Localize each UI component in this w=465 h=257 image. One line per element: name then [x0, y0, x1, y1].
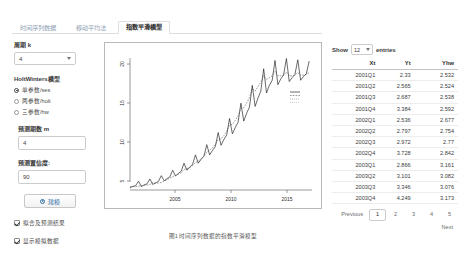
- period-label: 周期 k: [14, 40, 94, 49]
- entries-select[interactable]: 12: [351, 44, 373, 55]
- control-sidebar: 周期 k 4 HoltWinters模型 单参数/ses 两参数/holt 三参…: [14, 40, 94, 255]
- table-cell-xt: 2002Q3: [332, 137, 375, 148]
- table-cell-yhw: 2.842: [419, 148, 458, 159]
- show-label: Show: [332, 47, 348, 53]
- table-row: 2003Q23.1013.082: [332, 170, 458, 181]
- entries-select-value: 12: [354, 47, 360, 53]
- pagination-next[interactable]: Next: [436, 222, 458, 234]
- series-line-yt: [130, 59, 309, 188]
- table-row: 2001Q22.5652.524: [332, 81, 458, 92]
- table-cell-xt: 2002Q4: [332, 148, 375, 159]
- table-row: 2002Q12.5362.677: [332, 114, 458, 125]
- radio-option-hw[interactable]: 三参数/hw: [14, 108, 94, 116]
- table-cell-yhw: 3.161: [419, 159, 458, 170]
- tab-timeseries-data[interactable]: 时间序列数据: [12, 22, 64, 34]
- show-entries-control: Show 12 entries: [332, 44, 458, 55]
- series-line-yhw: [130, 71, 309, 186]
- radio-option-holt[interactable]: 两参数/holt: [14, 97, 94, 105]
- table-cell-yt: 2.565: [375, 81, 418, 92]
- chevron-down-icon: [366, 48, 370, 51]
- timeseries-plot: 20 15 10 5 2005 2010 2015: [104, 42, 322, 209]
- table-cell-yt: 2.972: [375, 137, 418, 148]
- play-circle-icon: [40, 199, 45, 204]
- checkbox-icon-fit-forecast: [14, 220, 20, 226]
- table-header-row: Xt Yt Yhw: [332, 60, 458, 70]
- app-root: 时间序列数据 移动平均法 指数平滑模型 周期 k 4 HoltWinters模型…: [0, 0, 465, 257]
- period-select[interactable]: 4: [14, 52, 76, 65]
- table-row: 2001Q32.6872.538: [332, 92, 458, 103]
- table-row: 2001Q12.332.532: [332, 70, 458, 81]
- pagination-page-3[interactable]: 3: [405, 209, 422, 221]
- tab-exponential-smoothing[interactable]: 指数平滑模型: [118, 21, 170, 34]
- chevron-down-icon: [67, 57, 71, 60]
- y-tick-10: 10: [119, 139, 125, 145]
- tab-moving-average[interactable]: 移动平均法: [68, 22, 114, 34]
- col-header-xt[interactable]: Xt: [332, 60, 375, 70]
- table-cell-yt: 2.797: [375, 125, 418, 136]
- pagination-page-5[interactable]: 5: [441, 209, 458, 221]
- table-row: 2002Q32.9722.77: [332, 137, 458, 148]
- checkbox-show-simulated[interactable]: 显示模拟数据: [14, 237, 94, 245]
- plot-legend: [290, 92, 300, 103]
- table-cell-yhw: 2.77: [419, 137, 458, 148]
- table-cell-yhw: 2.754: [419, 125, 458, 136]
- table-cell-xt: 2003Q3: [332, 181, 375, 192]
- table-cell-yhw: 2.538: [419, 92, 458, 103]
- table-cell-yhw: 3.082: [419, 170, 458, 181]
- radio-label-hw: 三参数/hw: [22, 108, 49, 116]
- checkbox-label-show-simulated: 显示模拟数据: [23, 237, 59, 245]
- pagination-page-4[interactable]: 4: [423, 209, 440, 221]
- run-model-button[interactable]: 建模: [24, 194, 76, 208]
- x-tick-2010: 2010: [225, 196, 236, 202]
- y-tick-15: 15: [119, 100, 125, 106]
- pagination: Previous 1 2 3 4 5 Next: [332, 209, 458, 233]
- pagination-page-2[interactable]: 2: [387, 209, 404, 221]
- table-cell-yt: 3.728: [375, 148, 418, 159]
- pagination-page-1[interactable]: 1: [369, 209, 386, 221]
- x-tick-2005: 2005: [169, 196, 180, 202]
- x-tick-2015: 2015: [281, 196, 292, 202]
- table-cell-xt: 2001Q4: [332, 103, 375, 114]
- tab-bar: 时间序列数据 移动平均法 指数平滑模型: [12, 16, 322, 34]
- table-cell-xt: 2003Q4: [332, 193, 375, 204]
- plot-caption: 图1 时间序列数据的指数平滑模型: [104, 232, 322, 240]
- y-tick-5: 5: [119, 179, 125, 182]
- table-cell-yt: 2.33: [375, 70, 418, 81]
- radio-label-ses: 单参数/ses: [22, 86, 50, 94]
- table-row: 2003Q44.2493.173: [332, 193, 458, 204]
- run-model-label: 建模: [48, 197, 60, 206]
- table-cell-yhw: 2.592: [419, 103, 458, 114]
- entries-label: entries: [376, 47, 396, 53]
- col-header-yhw[interactable]: Yhw: [419, 60, 458, 70]
- table-cell-yhw: 3.076: [419, 181, 458, 192]
- y-tick-20: 20: [119, 61, 125, 67]
- period-select-value: 4: [19, 56, 22, 62]
- results-table: Xt Yt Yhw 2001Q12.332.5322001Q22.5652.52…: [332, 60, 458, 204]
- pagination-previous[interactable]: Previous: [336, 209, 368, 221]
- table-cell-xt: 2001Q1: [332, 70, 375, 81]
- table-cell-xt: 2001Q3: [332, 92, 375, 103]
- table-cell-xt: 2003Q2: [332, 170, 375, 181]
- col-header-yt[interactable]: Yt: [375, 60, 418, 70]
- table-cell-yt: 2.687: [375, 92, 418, 103]
- table-cell-xt: 2003Q1: [332, 159, 375, 170]
- table-cell-yt: 3.384: [375, 103, 418, 114]
- output-options: 拟合及预测结果 显示模拟数据: [14, 219, 94, 245]
- table-cell-yt: 2.536: [375, 114, 418, 125]
- confidence-label: 预测置信度:: [18, 158, 94, 167]
- horizon-input[interactable]: 4: [18, 136, 86, 150]
- plot-x-axis: 2005 2010 2015: [130, 190, 312, 202]
- table-cell-yt: 3.101: [375, 170, 418, 181]
- table-cell-xt: 2002Q1: [332, 114, 375, 125]
- confidence-input[interactable]: 90: [18, 170, 86, 184]
- table-cell-yhw: 2.524: [419, 81, 458, 92]
- table-cell-yt: 3.346: [375, 181, 418, 192]
- table-cell-yhw: 3.173: [419, 193, 458, 204]
- checkbox-fit-forecast[interactable]: 拟合及预测结果: [14, 219, 94, 227]
- results-table-panel: Show 12 entries Xt Yt Yhw 2001Q12.332.53…: [332, 44, 458, 233]
- radio-icon-ses: [14, 88, 19, 93]
- radio-option-ses[interactable]: 单参数/ses: [14, 86, 94, 94]
- table-cell-yhw: 2.677: [419, 114, 458, 125]
- table-cell-yhw: 2.532: [419, 70, 458, 81]
- table-cell-yt: 2.866: [375, 159, 418, 170]
